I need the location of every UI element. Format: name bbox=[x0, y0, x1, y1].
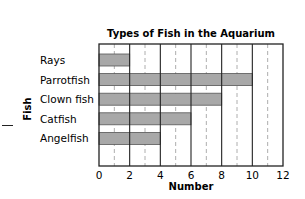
category-label: Parrotfish bbox=[40, 74, 90, 86]
bar-parrotfish bbox=[99, 74, 252, 86]
x-tick-label: 6 bbox=[188, 169, 195, 181]
category-label: Clown fish bbox=[40, 93, 94, 105]
x-axis-label: Number bbox=[169, 181, 214, 192]
bar-chart: Types of Fish in the Aquarium RaysParrot… bbox=[0, 0, 305, 199]
x-tick-label: 2 bbox=[126, 169, 133, 181]
category-label: Rays bbox=[40, 54, 65, 66]
tick-labels: 024681012 bbox=[96, 169, 290, 181]
category-label: Catfish bbox=[40, 113, 77, 125]
x-tick-label: 12 bbox=[276, 169, 289, 181]
bar-rays bbox=[99, 54, 130, 66]
x-tick-label: 4 bbox=[157, 169, 164, 181]
y-axis-label: Fish bbox=[22, 97, 33, 120]
category-label: Angelfish bbox=[40, 132, 89, 144]
x-tick-label: 10 bbox=[246, 169, 259, 181]
x-tick-label: 8 bbox=[218, 169, 225, 181]
category-labels: RaysParrotfishClown fishCatfishAngelfish bbox=[40, 54, 94, 144]
x-tick-label: 0 bbox=[96, 169, 103, 181]
chart-title: Types of Fish in the Aquarium bbox=[107, 28, 275, 39]
bar-catfish bbox=[99, 113, 191, 125]
